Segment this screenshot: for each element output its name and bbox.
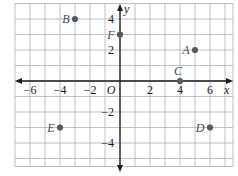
x-tick-label: −6 bbox=[24, 83, 37, 97]
point-label-F: F bbox=[106, 28, 115, 42]
coordinate-plane-figure: −6−4−224642−2−4OxyABCDEF bbox=[0, 0, 238, 176]
point-dot-B bbox=[72, 16, 78, 22]
point-dot-E bbox=[57, 124, 63, 130]
point-label-E: E bbox=[46, 121, 55, 135]
point-label-C: C bbox=[174, 64, 183, 78]
point-dot-F bbox=[117, 31, 123, 37]
y-tick-label: −4 bbox=[101, 136, 114, 150]
y-tick-label: −2 bbox=[101, 105, 114, 119]
point-dot-A bbox=[192, 47, 198, 53]
point-dot-C bbox=[177, 78, 183, 84]
y-tick-label: 4 bbox=[108, 12, 114, 26]
point-label-B: B bbox=[62, 12, 70, 26]
x-axis-label: x bbox=[223, 83, 230, 97]
point-label-A: A bbox=[181, 43, 190, 57]
x-tick-label: 4 bbox=[177, 83, 183, 97]
x-tick-label: 2 bbox=[147, 83, 153, 97]
x-tick-label: −4 bbox=[54, 83, 67, 97]
x-tick-label: −2 bbox=[84, 83, 97, 97]
point-label-D: D bbox=[195, 121, 205, 135]
y-tick-label: 2 bbox=[108, 43, 114, 57]
y-axis-label: y bbox=[123, 2, 130, 16]
point-dot-D bbox=[207, 124, 213, 130]
origin-label: O bbox=[107, 83, 116, 97]
coordinate-grid: −6−4−224642−2−4OxyABCDEF bbox=[0, 0, 238, 176]
x-tick-label: 6 bbox=[207, 83, 213, 97]
